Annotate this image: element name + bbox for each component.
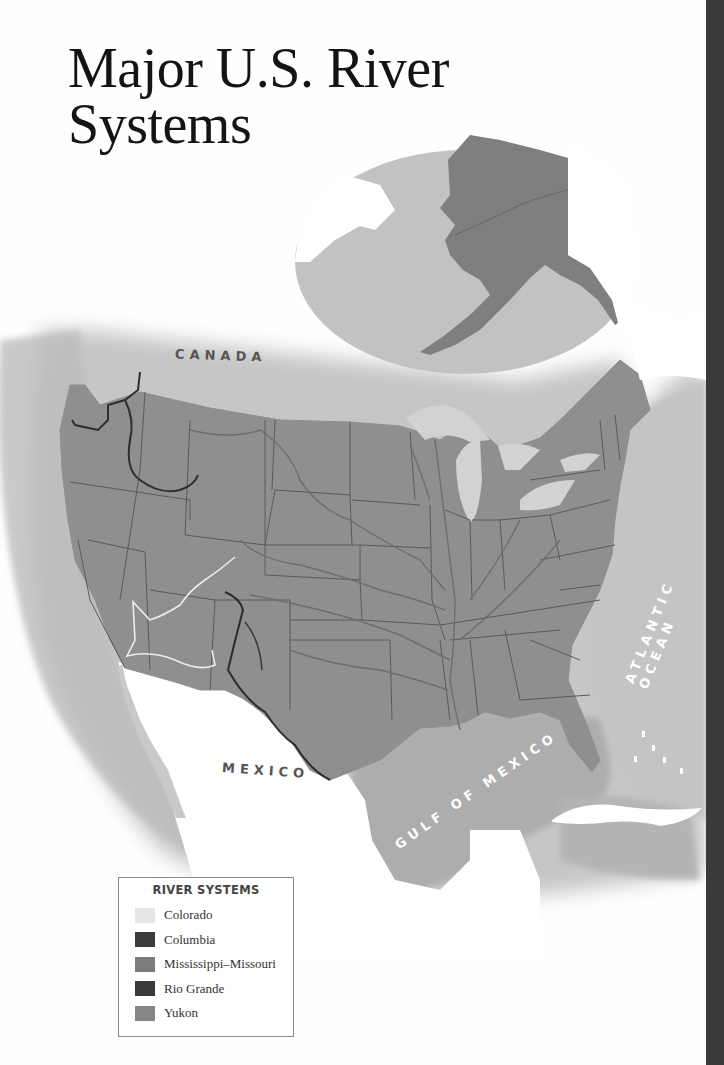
legend-label: Mississippi–Missouri bbox=[164, 956, 276, 972]
title-line-2: Systems bbox=[68, 96, 449, 152]
legend: RIVER SYSTEMS Colorado Columbia Mississi… bbox=[118, 877, 294, 1037]
map-canvas bbox=[0, 0, 706, 1065]
legend-swatch bbox=[135, 981, 155, 996]
legend-item-yukon: Yukon bbox=[119, 1001, 293, 1026]
title-line-1: Major U.S. River bbox=[68, 40, 449, 96]
legend-swatch bbox=[135, 957, 155, 972]
legend-title: RIVER SYSTEMS bbox=[119, 883, 293, 897]
book-spine-edge bbox=[706, 0, 724, 1065]
legend-item-colorado: Colorado bbox=[119, 903, 293, 928]
legend-label: Yukon bbox=[164, 1005, 198, 1021]
page-title: Major U.S. River Systems bbox=[68, 40, 449, 152]
legend-item-rio-grande: Rio Grande bbox=[119, 977, 293, 1002]
legend-item-mississippi-missouri: Mississippi–Missouri bbox=[119, 952, 293, 977]
legend-swatch bbox=[135, 932, 155, 947]
legend-item-columbia: Columbia bbox=[119, 928, 293, 953]
legend-label: Columbia bbox=[164, 932, 215, 948]
alaska-inset bbox=[295, 135, 640, 374]
legend-swatch bbox=[135, 1006, 155, 1021]
map-page: Major U.S. River Systems CANADA MEXICO P… bbox=[0, 0, 706, 1065]
legend-label: Rio Grande bbox=[164, 981, 224, 997]
legend-swatch bbox=[135, 908, 155, 923]
label-canada: CANADA bbox=[175, 346, 267, 364]
legend-label: Colorado bbox=[164, 907, 212, 923]
